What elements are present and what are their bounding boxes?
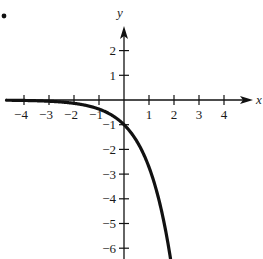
y-tick-label: −2 xyxy=(102,142,116,157)
axes xyxy=(8,26,253,259)
y-tick-label: 2 xyxy=(110,43,117,58)
x-tick-label: 1 xyxy=(146,107,153,122)
x-tick-label: −4 xyxy=(14,107,28,122)
y-tick-label: −3 xyxy=(102,167,116,182)
y-tick-label: −6 xyxy=(102,241,116,256)
x-tick-label: 2 xyxy=(171,107,178,122)
y-tick-label: −4 xyxy=(102,191,116,206)
y-axis-label: y xyxy=(115,5,123,20)
problem-marker-dot xyxy=(2,14,7,19)
x-tick-label: −3 xyxy=(39,107,53,122)
y-tick-label: 1 xyxy=(110,68,117,83)
x-axis-label: x xyxy=(255,92,262,107)
x-tick-label: −2 xyxy=(64,107,78,122)
y-tick-label: −5 xyxy=(102,216,116,231)
x-tick-label: 4 xyxy=(221,107,228,122)
x-tick-label: 3 xyxy=(196,107,203,122)
graph: −4−3−2−1123421−1−2−3−4−5−6 x y xyxy=(0,0,263,259)
function-curve xyxy=(7,100,171,258)
y-tick-label: −1 xyxy=(102,117,116,132)
